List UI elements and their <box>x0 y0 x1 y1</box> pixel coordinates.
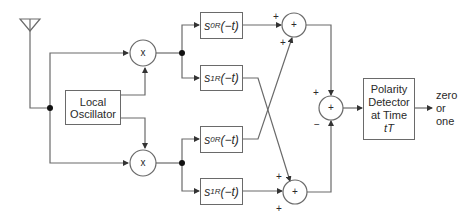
filter-subscript: 1R <box>210 187 220 196</box>
matched-filter-upper-s0R: s0R(−t) <box>200 12 243 39</box>
junction-dot <box>179 160 185 166</box>
filter-argument: (−t) <box>220 185 238 199</box>
matched-filter-lower-s0R: s0R(−t) <box>200 126 243 153</box>
multiplier-symbol: x <box>137 48 149 58</box>
summer-symbol: + <box>325 103 337 113</box>
multiplier-symbol: x <box>137 158 149 168</box>
output-label-line3: one <box>436 115 454 127</box>
junction-dot <box>179 50 185 56</box>
sign-plus: + <box>280 38 286 48</box>
local-oscillator-block: Local Oscillator <box>65 90 121 125</box>
summer-symbol: + <box>288 20 300 30</box>
output-label-line1: zero <box>436 89 457 101</box>
filter-argument: (−t) <box>220 133 238 147</box>
lo-label-line1: Local <box>80 96 106 108</box>
sign-minus: − <box>314 120 320 130</box>
detector-label-line2: Detector <box>368 96 410 109</box>
filter-argument: (−t) <box>220 71 238 85</box>
summer-symbol: + <box>289 187 301 197</box>
sign-plus: + <box>276 204 282 214</box>
output-label-line2: or <box>436 102 446 114</box>
sign-plus: + <box>313 88 319 98</box>
antenna-icon <box>20 19 40 31</box>
filter-subscript: 0R <box>210 135 220 144</box>
filter-argument: (−t) <box>220 19 238 33</box>
detector-label-line3: at Time <box>371 109 407 122</box>
lo-label-line2: Oscillator <box>70 108 116 120</box>
filter-subscript: 0R <box>210 21 220 30</box>
detector-label-line4: tT <box>384 122 394 135</box>
junction-dot <box>47 105 53 111</box>
detector-label-line1: Polarity <box>371 83 408 96</box>
matched-filter-upper-s1R: s1R(−t) <box>200 65 243 91</box>
matched-filter-lower-s1R: s1R(−t) <box>200 178 243 205</box>
filter-subscript: 1R <box>210 74 220 83</box>
polarity-detector-block: Polarity Detector at Time tT <box>363 78 415 140</box>
sign-plus: + <box>273 12 279 22</box>
sign-plus: + <box>276 172 282 182</box>
